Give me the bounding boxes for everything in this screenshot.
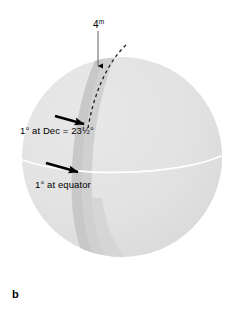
time-interval-unit: m — [99, 18, 105, 25]
time-interval-label: 4m — [93, 20, 104, 30]
figure-panel-b: 4m 1° at Dec = 23½° 1° at equator b — [0, 0, 235, 314]
celestial-sphere-diagram — [0, 0, 235, 314]
equator-width-label: 1° at equator — [35, 180, 91, 190]
sphere-body — [22, 57, 222, 257]
panel-letter-label: b — [12, 289, 19, 300]
declination-width-label: 1° at Dec = 23½° — [20, 126, 94, 136]
